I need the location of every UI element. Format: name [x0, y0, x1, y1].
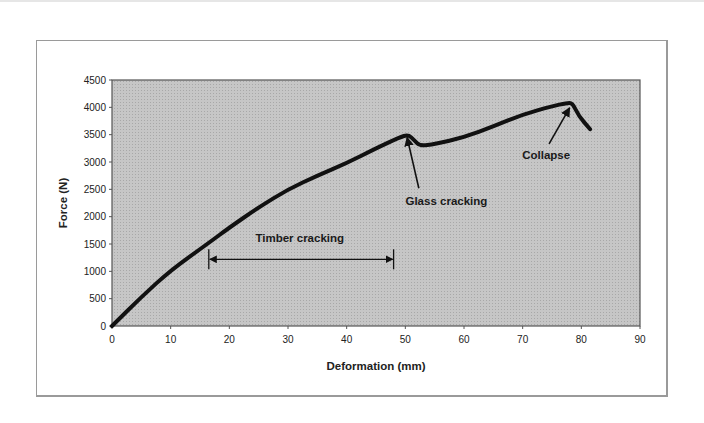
timber-cracking-label: Timber cracking: [255, 232, 344, 244]
x-tick-label: 20: [224, 334, 236, 345]
x-tick-label: 30: [282, 334, 294, 345]
x-tick-label: 60: [458, 334, 470, 345]
y-tick-label: 500: [89, 293, 106, 304]
x-tick-label: 90: [634, 334, 646, 345]
y-tick-label: 1000: [84, 266, 107, 277]
y-tick-label: 2500: [84, 184, 107, 195]
x-tick-label: 10: [165, 334, 177, 345]
x-tick-label: 80: [576, 334, 588, 345]
y-tick-label: 4000: [84, 102, 107, 113]
chart: 050010001500200025003000350040004500 010…: [0, 0, 704, 423]
y-tick-label: 3500: [84, 129, 107, 140]
collapse-label: Collapse: [522, 149, 570, 161]
y-tick-label: 1500: [84, 239, 107, 250]
y-tick-label: 2000: [84, 211, 107, 222]
x-tick-label: 40: [341, 334, 353, 345]
x-tick-label: 70: [517, 334, 529, 345]
glass-cracking-label: Glass cracking: [405, 195, 487, 207]
x-tick-label: 50: [400, 334, 412, 345]
plot-area: [112, 80, 640, 326]
x-axis-title: Deformation (mm): [326, 360, 425, 372]
y-tick-label: 0: [100, 321, 106, 332]
y-axis-title: Force (N): [57, 178, 69, 229]
y-axis: 050010001500200025003000350040004500: [84, 75, 112, 332]
x-tick-label: 0: [109, 334, 115, 345]
x-axis: 0102030405060708090: [109, 326, 646, 345]
y-tick-label: 4500: [84, 75, 107, 86]
y-tick-label: 3000: [84, 157, 107, 168]
